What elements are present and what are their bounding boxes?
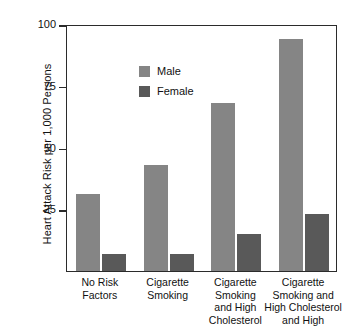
y-tick-mark-50 (59, 149, 66, 151)
bar-female-group-3 (237, 234, 261, 271)
y-tick-mark-25 (59, 210, 66, 212)
bar-male-group-2 (144, 165, 168, 271)
x-label-line: Cigarette (255, 276, 351, 289)
bar-male-group-1 (76, 194, 100, 271)
bar-female-group-4 (305, 214, 329, 271)
y-tick-label-25: 25 (16, 204, 56, 215)
legend-item-female: Female (139, 81, 194, 101)
bar-male-group-3 (211, 103, 235, 271)
legend-label: Female (157, 86, 194, 97)
bar-chart-figure: Heart Attack Risk per 1,000 Persons 2550… (0, 0, 355, 328)
x-label-group-4: CigaretteSmoking andHigh Cholesteroland … (255, 276, 351, 326)
bar-female-group-2 (170, 254, 194, 271)
y-tick-label-100: 100 (16, 19, 56, 30)
legend-item-male: Male (139, 61, 194, 81)
legend-label: Male (157, 66, 181, 77)
x-label-line: High Cholesterol (255, 301, 351, 314)
x-axis-category-labels: No RiskFactorsCigaretteSmokingCigaretteS… (66, 276, 337, 328)
y-axis-title: Heart Attack Risk per 1,000 Persons (41, 29, 53, 279)
y-tick-label-75: 75 (16, 81, 56, 92)
bar-female-group-1 (102, 254, 126, 271)
plot-area: MaleFemale (66, 25, 337, 272)
x-label-line: Smoking and (255, 289, 351, 302)
chart-legend: MaleFemale (139, 61, 194, 101)
x-label-line: and High (255, 314, 351, 327)
y-tick-label-50: 50 (16, 143, 56, 154)
y-tick-mark-75 (59, 87, 66, 89)
bar-male-group-4 (279, 39, 303, 271)
legend-swatch-male (139, 66, 150, 77)
y-tick-mark-100 (59, 25, 66, 27)
legend-swatch-female (139, 86, 150, 97)
